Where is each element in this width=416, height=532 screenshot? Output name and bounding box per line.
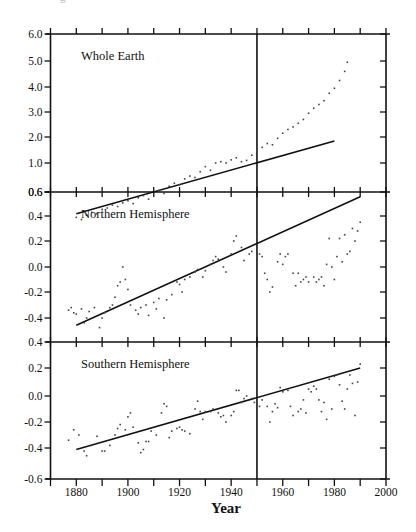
data-point — [339, 384, 341, 386]
data-point — [143, 195, 145, 197]
data-point — [328, 378, 330, 380]
data-point — [163, 193, 165, 195]
data-point — [210, 169, 212, 171]
data-point — [112, 204, 114, 206]
data-point — [269, 291, 271, 293]
y-tick-label: 0.2 — [28, 235, 43, 247]
x-tick-label: 1880 — [65, 486, 88, 498]
y-tick-label: 0.0 — [28, 261, 43, 273]
data-point — [145, 304, 147, 306]
data-point — [241, 161, 243, 163]
data-point — [331, 408, 333, 410]
y-tick-label: 0.2 — [28, 362, 43, 374]
data-point — [292, 415, 294, 417]
data-point — [68, 439, 70, 441]
x-axis: 1880190019201940196019802000 — [65, 486, 398, 498]
data-point — [78, 434, 80, 436]
data-point — [189, 276, 191, 278]
data-point — [349, 374, 351, 376]
data-point — [290, 406, 292, 408]
data-point — [285, 256, 287, 258]
data-point — [318, 399, 320, 401]
data-point — [354, 415, 356, 417]
data-point — [321, 276, 323, 278]
data-point — [217, 258, 219, 260]
data-point — [259, 406, 261, 408]
trend-line — [76, 141, 334, 214]
data-point — [300, 408, 302, 410]
data-point — [300, 281, 302, 283]
y-tick-label: -0.6 — [24, 473, 42, 485]
data-point — [212, 408, 214, 410]
data-point — [354, 240, 356, 242]
data-point — [176, 281, 178, 283]
data-point — [210, 264, 212, 266]
y-tick-label: 0.4 — [28, 210, 43, 222]
data-point — [150, 430, 152, 432]
data-point — [308, 112, 310, 114]
data-point — [205, 270, 207, 272]
data-point — [179, 426, 181, 428]
data-point — [91, 445, 93, 447]
data-point — [261, 399, 263, 401]
data-point — [137, 313, 139, 315]
x-tick-label: 2000 — [375, 486, 398, 498]
data-point — [202, 419, 204, 421]
x-tick-label: 1940 — [220, 486, 243, 498]
panel-title: Southern Hemisphere — [81, 357, 190, 371]
data-point — [344, 408, 346, 410]
data-point — [344, 234, 346, 236]
data-point — [318, 279, 320, 281]
data-point — [109, 445, 111, 447]
y-tick-label: -0.2 — [24, 286, 42, 298]
data-point — [334, 279, 336, 281]
data-point — [225, 162, 227, 164]
data-point — [305, 412, 307, 414]
data-point — [313, 276, 315, 278]
data-point — [264, 272, 266, 274]
data-point — [279, 253, 281, 255]
data-point — [68, 309, 70, 311]
data-point — [122, 202, 124, 204]
data-point — [277, 407, 279, 409]
data-point — [148, 315, 150, 317]
data-point — [272, 411, 274, 413]
data-point — [251, 154, 253, 156]
data-point — [199, 171, 201, 173]
data-point — [334, 376, 336, 378]
x-tick-label: 1920 — [168, 486, 191, 498]
data-point — [168, 185, 170, 187]
data-point — [246, 395, 248, 397]
data-point — [241, 402, 243, 404]
panel-title: Whole Earth — [81, 49, 145, 63]
data-point — [109, 307, 111, 309]
data-point — [132, 203, 134, 205]
y-tick-label: -0.4 — [24, 442, 42, 454]
data-point — [132, 426, 134, 428]
data-point — [321, 411, 323, 413]
data-point — [127, 416, 129, 418]
data-point — [166, 406, 168, 408]
panel-title: Northern Hemisphere — [81, 207, 190, 221]
data-point — [205, 166, 207, 168]
data-point — [99, 327, 101, 329]
data-point — [341, 261, 343, 263]
data-point — [331, 266, 333, 268]
data-point — [292, 272, 294, 274]
data-point — [125, 429, 127, 431]
data-point — [236, 390, 238, 392]
data-point — [323, 285, 325, 287]
data-point — [114, 296, 116, 298]
data-point — [248, 253, 250, 255]
data-point — [220, 416, 222, 418]
temperature-figure: 6.05.04.03.02.01.00.6Whole Earth0.60.40.… — [0, 0, 416, 532]
data-point — [104, 312, 106, 314]
x-tick-label: 1980 — [323, 486, 346, 498]
data-point — [359, 221, 361, 223]
data-point — [130, 412, 132, 414]
data-point — [194, 271, 196, 273]
data-point — [215, 162, 217, 164]
data-point — [197, 269, 199, 271]
data-point — [158, 298, 160, 300]
data-point — [323, 402, 325, 404]
